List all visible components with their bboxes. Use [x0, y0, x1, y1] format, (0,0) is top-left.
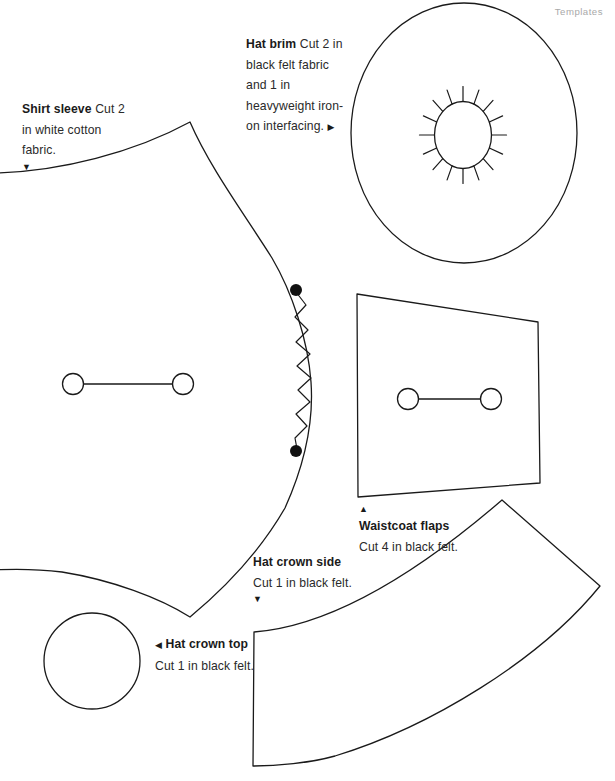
waistcoat-flaps-button-line [398, 389, 502, 410]
label-waistcoat-flaps-title: Waistcoat flaps [359, 519, 449, 533]
label-hat-brim-body: Cut 2 in black felt fabric and 1 in heav… [246, 37, 343, 133]
triangle-up-icon: ▲ [359, 503, 469, 516]
label-hat-brim: Hat brim Cut 2 in black felt fabric and … [246, 34, 350, 138]
waistcoat-flaps-outline [357, 294, 540, 497]
label-hat-brim-title: Hat brim [246, 37, 296, 51]
label-shirt-sleeve-title: Shirt sleeve [22, 102, 92, 116]
label-hat-crown-top: ◀ Hat crown top Cut 1 in black felt. [155, 634, 263, 676]
label-waistcoat-flaps: ▲ Waistcoat flaps Cut 4 in black felt. [359, 503, 469, 557]
triangle-down-icon: ▼ [253, 593, 359, 605]
notch-dot-top [290, 284, 302, 296]
hat-brim-outer-oval [351, 3, 577, 263]
label-hat-crown-side-title: Hat crown side [253, 555, 341, 569]
templates-page: Templates [0, 0, 615, 781]
label-waistcoat-flaps-body: Cut 4 in black felt. [359, 540, 458, 554]
shirt-sleeve-button-line [63, 374, 194, 395]
label-hat-crown-side-body: Cut 1 in black felt. [253, 576, 352, 590]
label-hat-crown-top-title: Hat crown top [166, 637, 249, 651]
triangle-left-icon: ◀ [155, 640, 162, 650]
triangle-down-icon: ▼ [22, 161, 130, 173]
hat-brim-radial-ticks [420, 87, 507, 184]
triangle-right-icon: ▶ [328, 122, 335, 132]
hat-crown-top-outline [44, 613, 140, 709]
label-hat-crown-top-body: Cut 1 in black felt. [155, 659, 254, 673]
shirt-sleeve-outline [0, 122, 311, 617]
label-hat-crown-side: Hat crown side Cut 1 in black felt. ▼ [253, 552, 359, 605]
label-shirt-sleeve: Shirt sleeve Cut 2 in white cotton fabri… [22, 99, 130, 173]
notch-dot-bottom [290, 445, 302, 457]
